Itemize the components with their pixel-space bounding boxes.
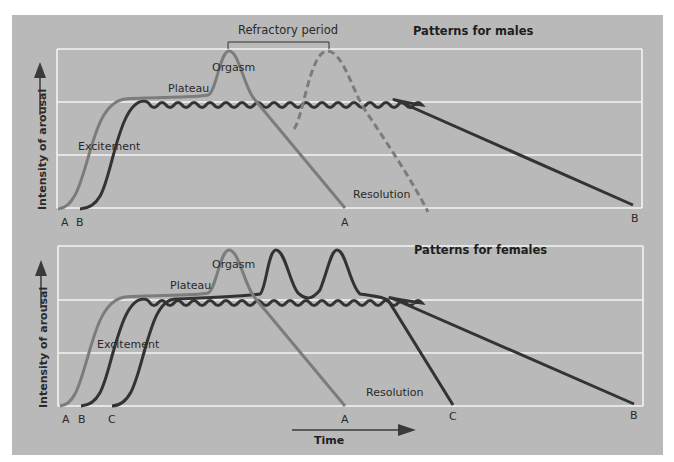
males-plateau-label: Plateau: [168, 82, 209, 95]
males-end-a-label: A: [341, 216, 349, 229]
females-plateau-label: Plateau: [170, 279, 211, 292]
females-start-a-label: A: [62, 413, 70, 426]
females-excitement-label: Excitement: [97, 338, 160, 351]
females-start-c-label: C: [108, 413, 116, 426]
males-orgasm-label: Orgasm: [212, 61, 255, 74]
females-curve-b: [81, 298, 634, 406]
females-start-b-label: B: [78, 413, 86, 426]
refractory-bracket: [228, 42, 329, 49]
males-end-b-label: B: [631, 212, 639, 225]
time-axis-arrow-icon: [292, 424, 416, 436]
time-axis-label: Time: [314, 434, 344, 447]
arousal-patterns-figure: Intensity of arousal Refractory period O…: [0, 0, 674, 462]
males-start-b-label: B: [76, 216, 84, 229]
females-end-a-label: A: [341, 413, 349, 426]
males-y-axis-label: Intensity of arousal: [36, 89, 49, 210]
females-grid: [58, 246, 643, 406]
females-curve-c: [112, 250, 453, 406]
males-resolution-label: Resolution: [353, 188, 411, 201]
males-start-a-label: A: [61, 216, 69, 229]
males-chart: Intensity of arousal Refractory period O…: [34, 23, 642, 229]
females-chart: Intensity of arousal Orgasm Plateau Exci…: [35, 243, 643, 447]
females-end-c-label: C: [449, 410, 457, 423]
males-curve-a: [58, 51, 345, 209]
females-end-b-label: B: [630, 409, 638, 422]
females-chart-title: Patterns for females: [414, 243, 547, 257]
females-y-axis-label: Intensity of arousal: [37, 287, 50, 408]
females-orgasm-label: Orgasm: [212, 258, 255, 271]
females-resolution-label: Resolution: [366, 386, 424, 399]
males-grid: [57, 49, 642, 208]
refractory-period-label: Refractory period: [238, 23, 338, 37]
males-chart-title: Patterns for males: [413, 24, 533, 38]
males-excitement-label: Excitement: [78, 140, 141, 153]
